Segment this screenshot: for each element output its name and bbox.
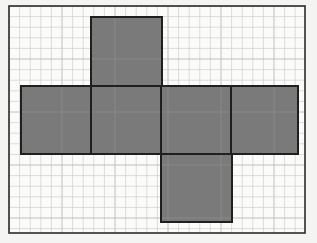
figure-canvas — [0, 0, 317, 243]
face-left-fill — [21, 86, 91, 154]
face-right-fill — [161, 86, 231, 154]
face-top-fill — [91, 17, 162, 86]
cube-net-figure — [0, 0, 317, 243]
face-back-fill — [231, 86, 298, 154]
face-front-fill — [91, 86, 161, 154]
